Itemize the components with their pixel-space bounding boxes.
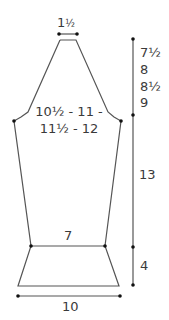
hem-dot-left (16, 294, 20, 298)
garment-outline (14, 40, 121, 286)
waist-dot-right (103, 244, 107, 248)
vertical-dot-waist (131, 245, 135, 249)
waist-width-label: 7 (64, 228, 72, 243)
armhole-depth-4: 9 (140, 95, 148, 110)
vertical-dot-top (131, 37, 135, 41)
neck-dot-right (75, 32, 79, 36)
waist-dot-left (29, 244, 33, 248)
shoulder-dot-right (119, 119, 123, 123)
armhole-depth-2: 8 (140, 62, 148, 77)
vertical-dot-bottom (131, 283, 135, 287)
hem-dot-right (118, 294, 122, 298)
shoulder-dot-left (12, 119, 16, 123)
neck-dot-left (57, 32, 61, 36)
neck-width-frac: ½ (65, 18, 75, 29)
vertical-dot-armhole (131, 113, 135, 117)
armhole-depth-1: 7½ (140, 45, 161, 60)
body-length-label: 13 (139, 167, 156, 182)
hem-width-label: 10 (62, 299, 79, 314)
hem-depth-label: 4 (140, 258, 148, 273)
chest-width-line2: 11½ - 12 (34, 121, 104, 136)
armhole-depth-3: 8½ (140, 79, 161, 94)
chest-width-line1: 10½ - 11 - (34, 104, 104, 119)
neck-width-label: 1½ (57, 15, 75, 31)
